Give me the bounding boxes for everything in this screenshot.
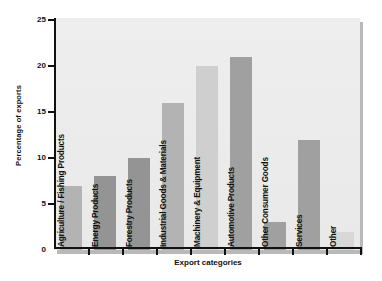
x-tickmark <box>190 249 192 255</box>
y-tick-label: 0 <box>26 245 46 254</box>
bar-category-label-text: Other Consumer Goods <box>261 157 270 247</box>
y-tick-label: 20 <box>26 61 46 70</box>
x-tickmark <box>122 249 124 255</box>
y-tickmark <box>48 65 56 67</box>
bar-category-label-text: Forestry Products <box>125 179 134 247</box>
y-tickmark <box>48 19 56 21</box>
bar-category-label-text: Services <box>295 215 304 248</box>
x-tickmark <box>224 249 226 255</box>
plot-area: Agriculture / Fishing ProductsEnergy Pro… <box>54 18 360 250</box>
y-tickmark <box>48 203 56 205</box>
y-tick-label: 25 <box>26 15 46 24</box>
bar-category-label-text: Other <box>329 226 338 247</box>
bar-chart: Percentage of exports 0510152025 Agricul… <box>0 0 382 281</box>
x-axis-title: Export categories <box>54 258 362 267</box>
plot-background: Agriculture / Fishing ProductsEnergy Pro… <box>54 18 360 250</box>
bar-category-label-text: Automotive Products <box>227 167 236 247</box>
y-tick-label: 15 <box>26 107 46 116</box>
y-tick-label: 10 <box>26 153 46 162</box>
bar-category-label-text: Machinery & Equipment <box>193 157 202 247</box>
x-tickmark <box>326 249 328 255</box>
bar-category-label-text: Industrial Goods & Materials <box>159 140 168 247</box>
y-axis-title-text: Percentage of exports <box>14 85 23 166</box>
x-tickmark <box>360 249 362 255</box>
y-tickmark <box>48 111 56 113</box>
y-axis-line <box>54 18 56 249</box>
bar-category-label-text: Agriculture / Fishing Products <box>57 134 66 247</box>
x-tickmark <box>292 249 294 255</box>
y-axis-tick-labels: 0510152025 <box>26 14 46 254</box>
bar-category-label-text: Energy Products <box>91 184 100 247</box>
x-tickmark <box>258 249 260 255</box>
y-tick-label: 5 <box>26 199 46 208</box>
x-axis-line <box>54 247 362 249</box>
y-tickmark <box>48 157 56 159</box>
x-tickmark <box>88 249 90 255</box>
x-tickmark <box>156 249 158 255</box>
